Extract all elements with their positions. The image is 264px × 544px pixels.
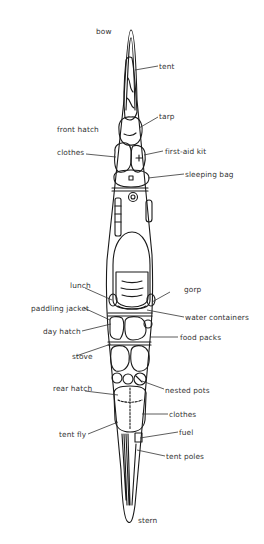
- kayak-drawing: [0, 0, 264, 544]
- label-clothes-rear: clothes: [169, 410, 196, 419]
- label-tent-poles: tent poles: [166, 452, 204, 461]
- label-tent: tent: [159, 62, 174, 71]
- label-nested-pots: nested pots: [165, 386, 210, 395]
- compass: [129, 193, 138, 202]
- label-fuel: fuel: [179, 428, 193, 437]
- cockpit: [113, 232, 150, 309]
- nested-pot-main: [134, 373, 146, 385]
- label-bow: bow: [96, 27, 112, 36]
- label-first-aid-kit: first-aid kit: [165, 147, 206, 156]
- stove: [111, 346, 130, 372]
- label-gorp: gorp: [184, 285, 201, 294]
- food-packs: [125, 317, 146, 340]
- label-lunch: lunch: [70, 281, 91, 290]
- flashlight: [115, 198, 121, 236]
- label-tarp: tarp: [159, 112, 175, 121]
- label-day-hatch: day hatch: [43, 327, 81, 336]
- label-rear-hatch: rear hatch: [53, 384, 92, 393]
- label-stern: stern: [138, 516, 157, 525]
- label-water-containers: water containers: [185, 313, 249, 322]
- label-paddling-jacket: paddling jacket: [31, 304, 89, 313]
- label-front-hatch: front hatch: [57, 125, 99, 134]
- label-stove: stove: [72, 352, 93, 361]
- tent-poles: [122, 434, 130, 505]
- nested-pot: [112, 373, 122, 383]
- label-food-packs: food packs: [180, 333, 221, 342]
- label-clothes-front: clothes: [57, 148, 84, 157]
- label-tent-fly: tent fly: [59, 430, 86, 439]
- paddling-jacket: [110, 317, 124, 340]
- kayak-packing-diagram: bow tent tarp front hatch clothes first-…: [0, 0, 264, 544]
- label-sleeping-bag: sleeping bag: [185, 170, 234, 179]
